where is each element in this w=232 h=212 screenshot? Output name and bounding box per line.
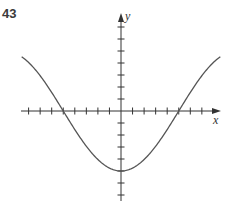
- x-axis-label: x: [212, 113, 219, 127]
- axes: [21, 18, 214, 201]
- cosine-graph: y x: [0, 0, 232, 212]
- y-axis-arrow-icon: [118, 13, 124, 22]
- y-axis-label: y: [124, 9, 131, 23]
